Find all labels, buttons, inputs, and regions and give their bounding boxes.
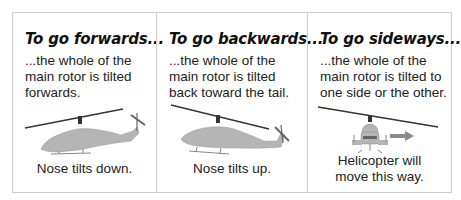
- caption-line: move this way.: [308, 169, 451, 185]
- panel-description: ...the whole of the main rotor is tilted…: [25, 53, 160, 101]
- panel-forwards: To go forwards... ...the whole of the ma…: [13, 13, 156, 192]
- helicopter-front-view-icon: [316, 105, 446, 155]
- panel-backwards: To go backwards... ...the whole of the m…: [156, 13, 307, 192]
- diagram-frame: To go forwards... ...the whole of the ma…: [12, 12, 452, 193]
- panel-caption: Helicopter will move this way.: [308, 153, 451, 185]
- panel-title: To go forwards...: [25, 30, 164, 48]
- caption-line: Helicopter will: [308, 153, 451, 169]
- panel-sideways: To go sideways... ...the whole of the ma…: [307, 13, 451, 192]
- panel-caption: Nose tilts up.: [157, 161, 307, 177]
- panel-title: To go sideways...: [320, 30, 461, 48]
- right-arrow-icon: [390, 131, 414, 141]
- panel-title: To go backwards...: [169, 30, 323, 48]
- helicopter-nose-down-icon: [23, 101, 148, 156]
- helicopter-nose-up-icon: [169, 101, 299, 156]
- panel-description: ...the whole of the main rotor is tilted…: [169, 53, 304, 101]
- panel-description: ...the whole of the main rotor is tilted…: [320, 53, 455, 101]
- panel-caption: Nose tilts down.: [13, 161, 156, 177]
